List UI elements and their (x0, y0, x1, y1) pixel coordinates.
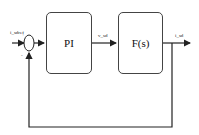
pi-block-label: PI (64, 37, 74, 49)
plant-block-label: F(s) (132, 37, 150, 49)
minus-sign: - (21, 53, 23, 58)
pi-controller-block: PI (46, 12, 92, 74)
plus-sign: + (22, 32, 24, 37)
controller-output-label: v_sd (98, 33, 107, 38)
summing-junction (24, 35, 34, 51)
plant-output-label: i_sd (175, 33, 183, 38)
diagram-wiring (0, 0, 199, 135)
plant-block: F(s) (118, 12, 163, 74)
